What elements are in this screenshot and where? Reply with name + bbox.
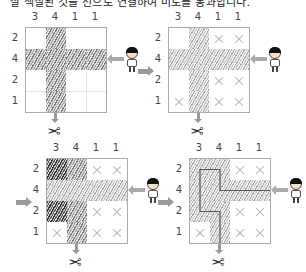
column-clues: 3 4 1 1 (189, 142, 269, 153)
column-clues: 3 4 1 1 (46, 142, 126, 153)
row-clue: 4 (9, 48, 21, 69)
column-clue: 1 (228, 11, 248, 22)
scissors-icon: ✂ (211, 253, 224, 269)
column-clue: 3 (25, 11, 45, 22)
row-clue: 1 (152, 90, 164, 111)
column-clue: 1 (85, 11, 105, 22)
x-mark-cell (87, 222, 107, 243)
shaded-cell (46, 70, 66, 91)
column-clue: 3 (189, 142, 209, 153)
row-clue: 2 (30, 158, 42, 179)
column-clue: 3 (46, 142, 66, 153)
column-clue: 4 (66, 142, 86, 153)
shaded-cell (86, 49, 106, 70)
column-clue: 1 (229, 142, 249, 153)
shaded-cell (107, 180, 127, 201)
empty-cell (26, 91, 46, 112)
x-mark-cell (47, 222, 67, 243)
column-clue: 4 (45, 11, 65, 22)
x-mark-cell (229, 28, 249, 49)
column-clue: 4 (209, 142, 229, 153)
column-clue: 1 (65, 11, 85, 22)
column-clue: 4 (188, 11, 208, 22)
x-mark-cell (209, 70, 229, 91)
boy-character-icon (266, 47, 284, 73)
shaded-cell (67, 159, 87, 180)
shaded-cell (46, 49, 66, 70)
x-mark-cell (209, 91, 229, 112)
empty-cell (86, 91, 106, 112)
empty-cell (26, 28, 46, 49)
row-clue: 4 (30, 179, 42, 200)
maze-grid (168, 27, 250, 113)
empty-cell (26, 70, 46, 91)
empty-cell (86, 28, 106, 49)
shaded-cell (87, 180, 107, 201)
row-clues: 2 4 2 1 (173, 158, 185, 242)
instruction-caption: 잘 색칠된 것을 선으로 연결하여 미로를 통과합니다. (10, 0, 250, 9)
shaded-cell (67, 201, 87, 222)
column-clue: 1 (249, 142, 269, 153)
puzzle-panel-2: 3 4 1 1 2 4 2 1 ✂ (168, 27, 250, 113)
shaded-cell (47, 159, 67, 180)
empty-cell (66, 28, 86, 49)
x-mark-cell (107, 222, 127, 243)
solution-path (190, 159, 290, 259)
row-clue: 2 (30, 200, 42, 221)
exit-arrow-icon (197, 113, 200, 120)
x-mark-cell (229, 70, 249, 91)
row-clue: 2 (173, 158, 185, 179)
shaded-cell (189, 28, 209, 49)
row-clues: 2 4 2 1 (9, 27, 21, 111)
shaded-cell (169, 49, 189, 70)
boy-character-icon (287, 178, 305, 204)
shaded-cell (229, 49, 249, 70)
row-clues: 2 4 2 1 (152, 27, 164, 111)
x-mark-cell (107, 201, 127, 222)
empty-cell (169, 70, 189, 91)
maze-grid (25, 27, 107, 113)
shaded-cell (46, 28, 66, 49)
column-clues: 3 4 1 1 (25, 11, 105, 22)
empty-cell (169, 28, 189, 49)
x-mark-cell (169, 91, 189, 112)
empty-cell (86, 70, 106, 91)
puzzle-panel-3: 3 4 1 1 2 4 2 1 ✂ (46, 158, 128, 244)
column-clues: 3 4 1 1 (168, 11, 248, 22)
puzzle-panel-1: 3 4 1 1 2 4 2 1 ✂ (25, 27, 107, 113)
row-clue: 4 (173, 179, 185, 200)
right-arrow-icon (16, 200, 26, 205)
column-clue: 3 (168, 11, 188, 22)
row-clue: 4 (152, 48, 164, 69)
shaded-cell (66, 49, 86, 70)
exit-arrow-icon (218, 244, 221, 251)
shaded-cell (26, 49, 46, 70)
shaded-cell (47, 180, 67, 201)
column-clue: 1 (106, 142, 126, 153)
x-mark-cell (107, 159, 127, 180)
scissors-icon: ✂ (47, 122, 60, 138)
row-clue: 2 (9, 69, 21, 90)
empty-cell (66, 91, 86, 112)
x-mark-cell (87, 201, 107, 222)
shaded-cell (67, 180, 87, 201)
empty-cell (66, 70, 86, 91)
shaded-cell (47, 201, 67, 222)
shaded-cell (209, 49, 229, 70)
scissors-icon: ✂ (68, 253, 81, 269)
row-clue: 1 (9, 90, 21, 111)
row-clues: 2 4 2 1 (30, 158, 42, 242)
exit-arrow-icon (75, 244, 78, 251)
row-clue: 2 (173, 200, 185, 221)
exit-arrow-icon (54, 113, 57, 120)
shaded-cell (189, 91, 209, 112)
row-clue: 2 (152, 27, 164, 48)
scissors-icon: ✂ (190, 122, 203, 138)
shaded-cell (67, 222, 87, 243)
x-mark-cell (229, 91, 249, 112)
row-clue: 1 (30, 221, 42, 242)
shaded-cell (189, 49, 209, 70)
maze-grid (46, 158, 128, 244)
x-mark-cell (87, 159, 107, 180)
row-clue: 1 (173, 221, 185, 242)
